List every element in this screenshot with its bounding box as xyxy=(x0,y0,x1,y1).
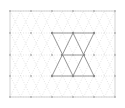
vertex-dot xyxy=(51,96,53,98)
vertex-dot xyxy=(9,54,11,56)
hexagram-vertex-dot xyxy=(83,54,85,56)
vertex-dot xyxy=(9,75,11,77)
vertex-dot xyxy=(9,32,11,34)
vertex-dot xyxy=(30,10,32,12)
lattice-figure xyxy=(0,0,125,108)
vertex-dot xyxy=(51,10,53,12)
vertex-dot xyxy=(30,54,32,56)
hexagram-vertex-dot xyxy=(51,75,53,77)
vertex-dot xyxy=(9,10,11,12)
hexagram-vertex-dot xyxy=(72,32,74,34)
vertex-dot xyxy=(93,54,95,56)
vertex-dot xyxy=(72,10,74,12)
lattice-svg xyxy=(0,0,125,108)
hexagram-vertex-dot xyxy=(61,54,63,56)
vertex-dot xyxy=(72,54,74,56)
vertex-dot xyxy=(9,96,11,98)
vertex-dot xyxy=(93,10,95,12)
hexagram-vertex-dot xyxy=(93,32,95,34)
vertex-dot xyxy=(30,75,32,77)
hexagram-vertex-dot xyxy=(93,75,95,77)
vertex-dot xyxy=(93,96,95,98)
vertex-dot xyxy=(114,75,116,77)
vertex-dot xyxy=(114,32,116,34)
hexagram-vertex-dot xyxy=(72,75,74,77)
vertex-dot xyxy=(114,96,116,98)
vertex-dot xyxy=(114,10,116,12)
vertex-dot xyxy=(72,96,74,98)
hexagram-vertex-dot xyxy=(51,32,53,34)
vertex-dot xyxy=(30,32,32,34)
vertex-dot xyxy=(30,96,32,98)
vertex-dot xyxy=(51,54,53,56)
vertex-dot xyxy=(114,54,116,56)
